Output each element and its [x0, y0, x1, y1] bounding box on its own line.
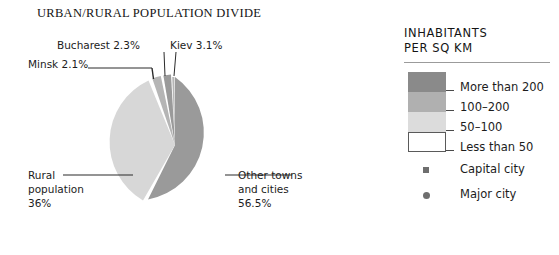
- pie-label-other-line1: Other towns: [238, 168, 334, 182]
- pie-label-other-line2: and cities: [238, 182, 334, 196]
- legend-panel: INHABITANTS PER SQ KM More than 200 100–…: [404, 26, 559, 206]
- legend-label-50-100: 50–100: [460, 120, 502, 134]
- legend-density-group: More than 200 100–200 50–100 Less than 5…: [404, 72, 559, 152]
- legend-title: INHABITANTS PER SQ KM: [404, 26, 559, 56]
- legend-tick-1: [446, 90, 454, 91]
- legend-label-capital-city: Capital city: [460, 162, 525, 176]
- legend-swatch-stack: [408, 72, 446, 152]
- pie-label-bucharest: Bucharest 2.3%: [57, 38, 140, 52]
- leader-line-minsk-drop: [152, 68, 154, 79]
- legend-item-capital-city: Capital city: [404, 160, 559, 181]
- legend-tick-3: [446, 130, 454, 131]
- leader-line-kiev: [174, 52, 176, 76]
- pie-label-rural-line1: Rural: [28, 168, 114, 182]
- pie-label-other-value: 56.5%: [238, 196, 334, 210]
- capital-city-marker-icon: [423, 167, 429, 173]
- legend-label-less-than-50: Less than 50: [460, 140, 533, 154]
- pie-label-rural-population: Rural population 36%: [28, 168, 114, 210]
- legend-title-line1: INHABITANTS: [404, 26, 559, 41]
- pie-label-rural-line2: population: [28, 182, 114, 196]
- legend-swatch-less-than-50: [408, 132, 446, 152]
- legend-swatch-more-than-200: [408, 72, 446, 92]
- legend-divider: [404, 62, 550, 63]
- legend-title-line2: PER SQ KM: [404, 41, 559, 56]
- legend-tick-4: [446, 150, 454, 151]
- pie-label-kiev: Kiev 3.1%: [170, 38, 223, 52]
- legend-label-100-200: 100–200: [460, 100, 510, 114]
- pie-label-minsk: Minsk 2.1%: [28, 57, 88, 71]
- pie-chart-figure: Bucharest 2.3% Kiev 3.1% Minsk 2.1% Rura…: [0, 0, 390, 255]
- legend-item-major-city: Major city: [404, 185, 559, 206]
- pie-label-other-towns: Other towns and cities 56.5%: [238, 168, 334, 210]
- legend-label-more-than-200: More than 200: [460, 80, 544, 94]
- legend-tick-2: [446, 110, 454, 111]
- legend-swatch-50-100: [408, 112, 446, 132]
- major-city-marker-icon: [423, 192, 430, 199]
- legend-swatch-100-200: [408, 92, 446, 112]
- leader-line-bucharest: [164, 52, 165, 76]
- legend-label-major-city: Major city: [460, 187, 516, 201]
- pie-label-rural-value: 36%: [28, 196, 114, 210]
